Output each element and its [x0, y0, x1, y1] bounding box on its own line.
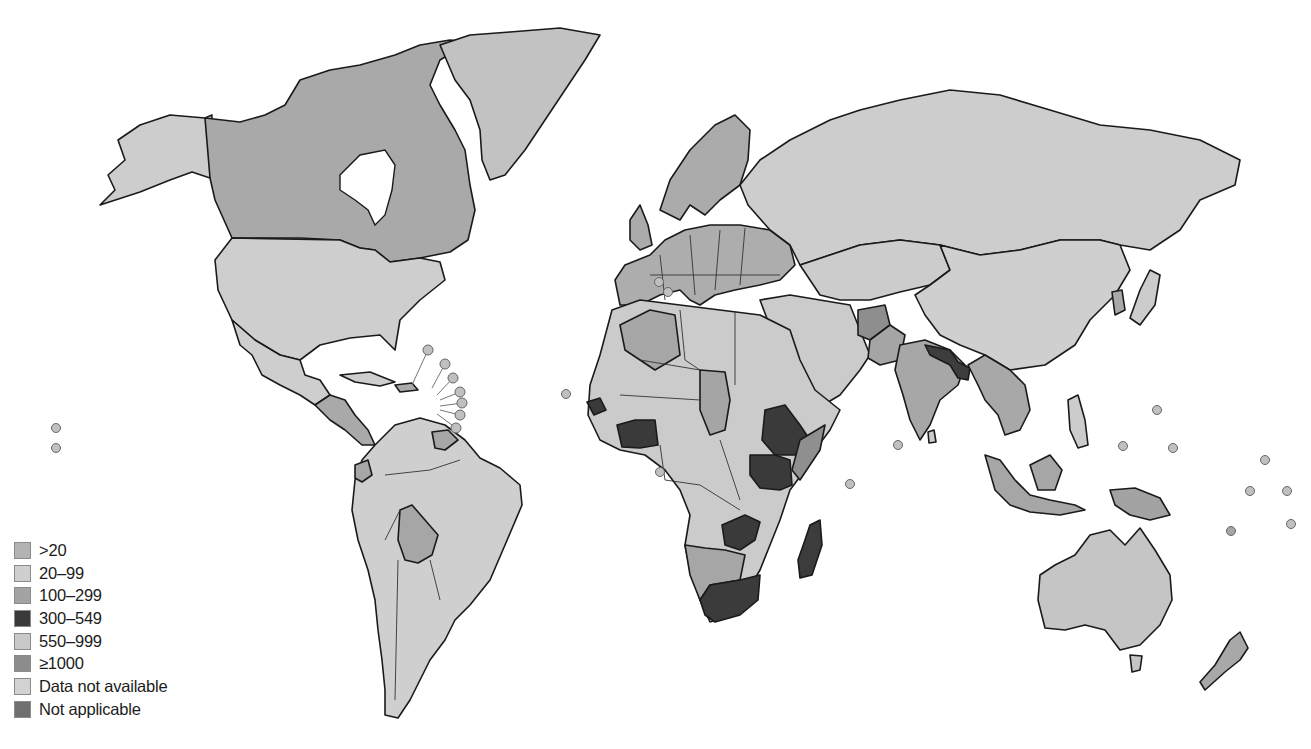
region-scandinavia [660, 115, 750, 220]
region-indonesia [985, 455, 1085, 515]
legend-swatch [14, 701, 31, 718]
region-central-america [315, 395, 375, 445]
region-uk [630, 205, 652, 250]
legend-swatch [14, 610, 31, 627]
legend-item: Not applicable [14, 698, 168, 721]
legend-swatch [14, 633, 31, 650]
legend-swatch [14, 542, 31, 559]
legend-label: ≥1000 [39, 654, 84, 673]
legend-swatch [14, 565, 31, 582]
legend-item: ≥1000 [14, 652, 168, 675]
legend-label: Not applicable [39, 700, 141, 719]
region-ivory-coast-ghana [617, 420, 658, 448]
legend-item: 20–99 [14, 562, 168, 585]
legend-label: Data not available [39, 677, 168, 696]
region-philippines [1068, 395, 1088, 448]
legend-label: >20 [39, 541, 66, 560]
region-madagascar [798, 520, 822, 578]
region-australia [1038, 528, 1172, 650]
region-alaska [100, 115, 212, 205]
legend-label: 550–999 [39, 632, 102, 651]
legend-label: 300–549 [39, 609, 102, 628]
region-korea [1112, 290, 1125, 315]
legend-item: >20 [14, 539, 168, 562]
region-cuba [340, 372, 395, 386]
legend-label: 100–299 [39, 586, 102, 605]
map-legend: >20 20–99 100–299 300–549 550–999 ≥1000 … [14, 539, 168, 721]
region-tasmania [1130, 655, 1142, 672]
region-russia [740, 90, 1240, 265]
region-sri-lanka [928, 430, 936, 443]
region-new-zealand [1200, 632, 1248, 690]
legend-swatch [14, 678, 31, 695]
legend-label: 20–99 [39, 564, 84, 583]
region-japan [1130, 270, 1160, 325]
region-papua-new-guinea [1110, 488, 1170, 520]
legend-swatch [14, 655, 31, 672]
region-hispaniola [395, 383, 418, 392]
region-canada [205, 40, 475, 262]
region-south-america [352, 418, 522, 718]
legend-swatch [14, 587, 31, 604]
legend-item: 300–549 [14, 607, 168, 630]
legend-item: 100–299 [14, 584, 168, 607]
world-choropleth-map [0, 0, 1311, 749]
legend-item: 550–999 [14, 630, 168, 653]
legend-item: Data not available [14, 675, 168, 698]
